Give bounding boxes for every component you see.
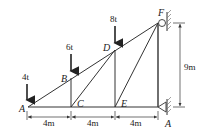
truss-diagram: A B C D E F A 4t 6t 8t (0, 0, 205, 135)
dimension-label-ac: 4m (43, 118, 55, 128)
dimension-label-eg: 4m (130, 118, 142, 128)
wall-hatch-icon (167, 97, 171, 113)
node-label-b: B (61, 73, 67, 84)
node-label-d: D (102, 42, 111, 53)
load-label-4t: 4t (22, 72, 30, 82)
pin-icon (159, 20, 166, 27)
node-labels: A B C D E F A (18, 7, 172, 129)
truss-members (28, 23, 158, 107)
support-bottom-roller (158, 97, 171, 115)
load-label-8t: 8t (110, 14, 118, 24)
dimension-label-ce: 4m (87, 118, 99, 128)
roller-triangle-icon (158, 102, 166, 112)
node-label-e: E (120, 98, 127, 109)
node-label-support-a: A (164, 118, 172, 129)
node-label-c: C (77, 98, 84, 109)
dimension-label-height: 9m (184, 62, 196, 72)
node-label-f: F (157, 7, 165, 18)
node-label-a: A (18, 103, 26, 114)
wall-hatch-icon (167, 10, 171, 30)
loads: 4t 6t 8t (22, 14, 118, 100)
member-top-chord (28, 23, 158, 107)
load-label-6t: 6t (66, 42, 74, 52)
member-ef (115, 23, 158, 107)
